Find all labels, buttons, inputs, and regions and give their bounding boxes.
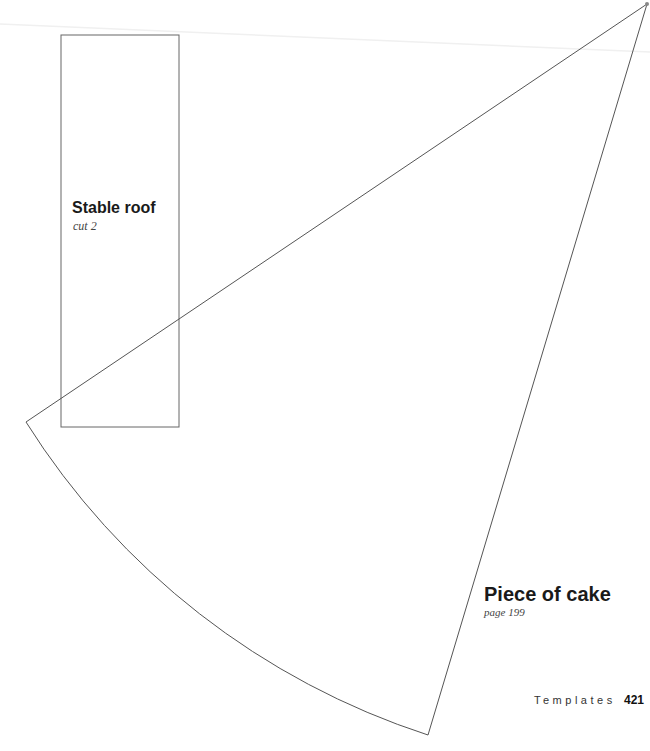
scan-artifact-line (0, 24, 650, 52)
template-shapes (0, 0, 650, 751)
cake-slice-outline (26, 4, 647, 735)
footer-page-number: 421 (624, 693, 644, 707)
stable-roof-note: cut 2 (73, 219, 97, 234)
piece-of-cake-title: Piece of cake (484, 583, 611, 606)
piece-of-cake-note: page 199 (484, 606, 525, 618)
footer-section-label: Templates (534, 694, 616, 706)
stable-roof-title: Stable roof (72, 199, 156, 217)
apex-mark (645, 2, 649, 6)
